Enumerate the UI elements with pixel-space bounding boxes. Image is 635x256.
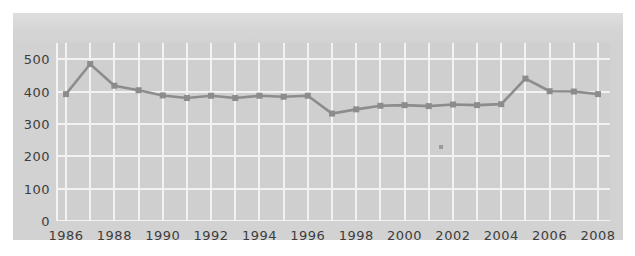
data-point-marker bbox=[305, 93, 311, 99]
plot-area bbox=[56, 43, 610, 221]
data-point-marker bbox=[160, 92, 166, 98]
data-point-marker bbox=[184, 95, 190, 101]
data-point-marker bbox=[136, 87, 142, 93]
data-point-marker bbox=[522, 76, 528, 82]
data-point-marker bbox=[595, 91, 601, 97]
x-axis-tick-label: 1992 bbox=[194, 228, 229, 243]
data-point-marker bbox=[353, 106, 359, 112]
x-axis-tick-label: 2004 bbox=[484, 228, 519, 243]
data-point-marker bbox=[232, 95, 238, 101]
data-point-marker bbox=[474, 102, 480, 108]
data-point-marker bbox=[402, 102, 408, 108]
data-series-line bbox=[56, 43, 610, 221]
data-point-marker bbox=[63, 91, 69, 97]
y-axis-tick-label: 200 bbox=[24, 149, 50, 164]
series-markers bbox=[63, 61, 601, 117]
x-axis-tick-label: 1998 bbox=[339, 228, 374, 243]
y-axis-tick-label: 400 bbox=[24, 84, 50, 99]
data-point-marker bbox=[111, 83, 117, 89]
x-axis-tick-label: 2006 bbox=[532, 228, 567, 243]
x-axis-tick-label: 2002 bbox=[435, 228, 470, 243]
data-point-marker bbox=[498, 101, 504, 107]
y-axis-tick-label: 0 bbox=[41, 214, 50, 229]
stray-dot-marker bbox=[439, 145, 443, 149]
data-point-marker bbox=[450, 101, 456, 107]
x-axis-tick-label: 1994 bbox=[242, 228, 277, 243]
x-axis-tick-label: 2008 bbox=[580, 228, 615, 243]
data-point-marker bbox=[547, 88, 553, 94]
y-axis-tick-label: 100 bbox=[24, 181, 50, 196]
data-point-marker bbox=[208, 93, 214, 99]
series-polyline bbox=[66, 64, 598, 114]
x-axis-tick-label: 1990 bbox=[145, 228, 180, 243]
data-point-marker bbox=[87, 61, 93, 67]
data-point-marker bbox=[571, 89, 577, 95]
chart-figure: 0100200300400500 19861988199019921994199… bbox=[0, 0, 635, 256]
x-axis-tick-label: 1996 bbox=[290, 228, 325, 243]
x-axis-tick-label: 2000 bbox=[387, 228, 422, 243]
y-axis-tick-label: 300 bbox=[24, 116, 50, 131]
data-point-marker bbox=[426, 103, 432, 109]
x-axis-tick-label: 1988 bbox=[97, 228, 132, 243]
y-axis-tick-label: 500 bbox=[24, 52, 50, 67]
data-point-marker bbox=[329, 111, 335, 117]
data-point-marker bbox=[281, 94, 287, 100]
data-point-marker bbox=[377, 103, 383, 109]
chart-panel: 0100200300400500 19861988199019921994199… bbox=[13, 13, 623, 240]
data-point-marker bbox=[256, 93, 262, 99]
x-axis-tick-label: 1986 bbox=[48, 228, 83, 243]
